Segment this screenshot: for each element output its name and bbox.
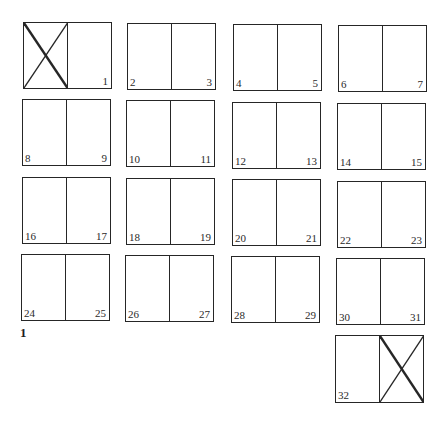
page-number-left: 18 (129, 232, 140, 243)
spread-gutter (65, 255, 66, 320)
spread-pages-22-23: 22 23 (337, 181, 426, 248)
spread-gutter (382, 26, 383, 91)
page-number-left: 26 (128, 309, 139, 320)
spread-gutter (170, 101, 171, 166)
page-number-left: 8 (25, 153, 31, 164)
page-number-right: 7 (418, 79, 424, 90)
spread-page-32-cover: 32 (335, 335, 424, 403)
figure-label: 1 (20, 325, 27, 341)
page-number-right: 11 (200, 154, 211, 165)
spread-gutter (171, 24, 172, 89)
page-number-right: 13 (306, 156, 317, 167)
spread-gutter (277, 25, 278, 90)
spread-gutter (381, 104, 382, 169)
page-number-right: 1 (103, 76, 109, 87)
spread-pages-24-25: 24 25 (21, 254, 110, 321)
page-number-right: 5 (313, 78, 319, 89)
page-number-left: 22 (340, 235, 351, 246)
page-number-left: 10 (129, 154, 140, 165)
page-number-left: 30 (339, 312, 350, 323)
spread-gutter (66, 100, 67, 165)
blank-page-cross-icon (380, 336, 424, 402)
spread-pages-4-5: 4 5 (233, 24, 322, 91)
page-number-left: 16 (25, 231, 36, 242)
spread-pages-20-21: 20 21 (232, 179, 321, 246)
spread-gutter (380, 259, 381, 324)
spread-gutter (381, 182, 382, 247)
spread-pages-30-31: 30 31 (336, 258, 425, 325)
spread-pages-10-11: 10 11 (126, 100, 215, 167)
page-number-right: 29 (305, 310, 316, 321)
page-number-left: 32 (338, 390, 349, 401)
page-number-right: 19 (200, 232, 211, 243)
spread-pages-14-15: 14 15 (337, 103, 426, 170)
page-number-left: 12 (235, 156, 246, 167)
page-number-left: 14 (340, 157, 351, 168)
spread-gutter (275, 257, 276, 322)
page-number-left: 6 (341, 79, 347, 90)
spread-pages-18-19: 18 19 (126, 178, 215, 245)
spread-gutter (169, 256, 170, 321)
spread-gutter (276, 103, 277, 168)
page-number-left: 2 (130, 77, 136, 88)
spread-gutter (170, 179, 171, 244)
spread-pages-28-29: 28 29 (231, 256, 320, 323)
spread-cover-page-1: 1 (23, 22, 112, 89)
spread-gutter (67, 23, 68, 88)
page-number-left: 4 (236, 78, 242, 89)
page-number-left: 28 (234, 310, 245, 321)
page-number-right: 25 (95, 308, 106, 319)
page-number-right: 27 (199, 309, 210, 320)
spread-pages-2-3: 2 3 (127, 23, 216, 90)
page-number-right: 9 (102, 153, 108, 164)
spread-pages-12-13: 12 13 (232, 102, 321, 169)
spread-pages-6-7: 6 7 (338, 25, 427, 92)
page-number-left: 20 (235, 233, 246, 244)
page-number-right: 23 (411, 235, 422, 246)
blank-page-cross-icon (24, 23, 68, 88)
spread-pages-8-9: 8 9 (22, 99, 111, 166)
page-number-right: 31 (410, 312, 421, 323)
page-number-right: 21 (306, 233, 317, 244)
spread-pages-26-27: 26 27 (125, 255, 214, 322)
spread-gutter (66, 178, 67, 243)
page-number-right: 15 (411, 157, 422, 168)
page-number-right: 3 (207, 77, 213, 88)
spread-pages-16-17: 16 17 (22, 177, 111, 244)
page-number-right: 17 (96, 231, 107, 242)
page-number-left: 24 (24, 308, 35, 319)
spread-gutter (276, 180, 277, 245)
